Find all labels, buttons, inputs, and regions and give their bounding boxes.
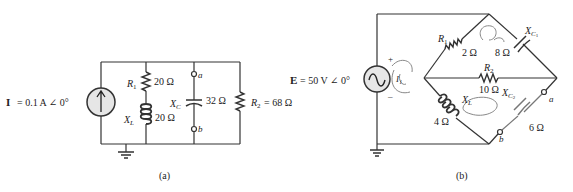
source-a-value: = 0.1 A ∠ 0° bbox=[17, 97, 69, 108]
xc-a-value: 32 Ω bbox=[206, 95, 226, 106]
ground-a-icon bbox=[118, 152, 134, 158]
r1-b-label: R1 bbox=[437, 33, 448, 46]
terminal-b-label: b bbox=[198, 124, 203, 134]
terminal-a-icon bbox=[192, 72, 197, 77]
xc2-b-label: XC2 bbox=[501, 87, 516, 100]
xl-b-label: XL bbox=[461, 94, 472, 107]
r2-a-value: = 68 Ω bbox=[264, 97, 292, 108]
r2-a-label: R2 bbox=[250, 97, 261, 110]
xc1-b-label: XC1 bbox=[524, 25, 539, 38]
source-b-symbol: E bbox=[290, 74, 297, 86]
caption-b: (b) bbox=[456, 170, 468, 182]
source-b-plus: + bbox=[388, 54, 393, 64]
xl-a-label: XL bbox=[123, 114, 134, 127]
xc-a-label: XC bbox=[169, 98, 181, 111]
xc2-b-value: 6 Ω bbox=[529, 122, 544, 133]
xc1-b-value: 8 Ω bbox=[495, 47, 510, 58]
terminal-a-b-label: a bbox=[549, 94, 554, 104]
loop-arrow-2-icon bbox=[480, 26, 504, 42]
r1-b-value: 2 Ω bbox=[462, 47, 477, 58]
loop-current-label: I₁ bbox=[395, 74, 402, 84]
r2-b-value: 10 Ω bbox=[479, 84, 499, 95]
capacitor-xc2-b-icon bbox=[514, 98, 530, 115]
ground-b-icon bbox=[370, 150, 384, 156]
r1-a-label: R1 bbox=[126, 78, 137, 91]
resistor-r1-a-icon bbox=[142, 72, 150, 91]
source-a-symbol: I bbox=[6, 96, 10, 108]
terminal-a-label: a bbox=[198, 70, 203, 80]
resistor-r2-a-icon bbox=[236, 92, 244, 111]
r1-a-value: 20 Ω bbox=[154, 76, 174, 87]
r2-b-label: R2 bbox=[483, 62, 494, 75]
source-b-minus: – bbox=[387, 91, 393, 101]
inductor-xl-a-icon bbox=[141, 104, 152, 124]
source-b-value: = 50 V ∠ 0° bbox=[300, 75, 350, 86]
resistor-r2-b-icon bbox=[479, 74, 498, 82]
inductor-xl-b-icon bbox=[439, 95, 459, 116]
terminal-b-icon bbox=[192, 127, 197, 132]
caption-a: (a) bbox=[159, 170, 170, 182]
terminal-a-b-icon bbox=[542, 90, 547, 95]
terminal-b-b-label: b bbox=[499, 134, 504, 144]
xl-a-value: 20 Ω bbox=[155, 112, 175, 123]
xl-b-value: 4 Ω bbox=[434, 116, 449, 127]
